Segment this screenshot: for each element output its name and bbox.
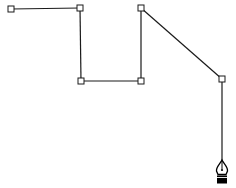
anchor-point[interactable] bbox=[8, 6, 14, 12]
pen-body bbox=[217, 178, 227, 184]
anchor-point[interactable] bbox=[138, 78, 144, 84]
drawing-canvas[interactable] bbox=[0, 0, 236, 188]
anchor-points bbox=[8, 5, 225, 84]
path-segments bbox=[11, 8, 222, 81]
anchor-point[interactable] bbox=[138, 5, 144, 11]
path-segment bbox=[141, 8, 222, 79]
anchor-point[interactable] bbox=[77, 5, 83, 11]
path-segment bbox=[80, 8, 81, 81]
anchor-point[interactable] bbox=[78, 78, 84, 84]
pen-tool-icon bbox=[216, 160, 227, 184]
path-segment bbox=[11, 8, 80, 9]
anchor-point[interactable] bbox=[219, 76, 225, 82]
